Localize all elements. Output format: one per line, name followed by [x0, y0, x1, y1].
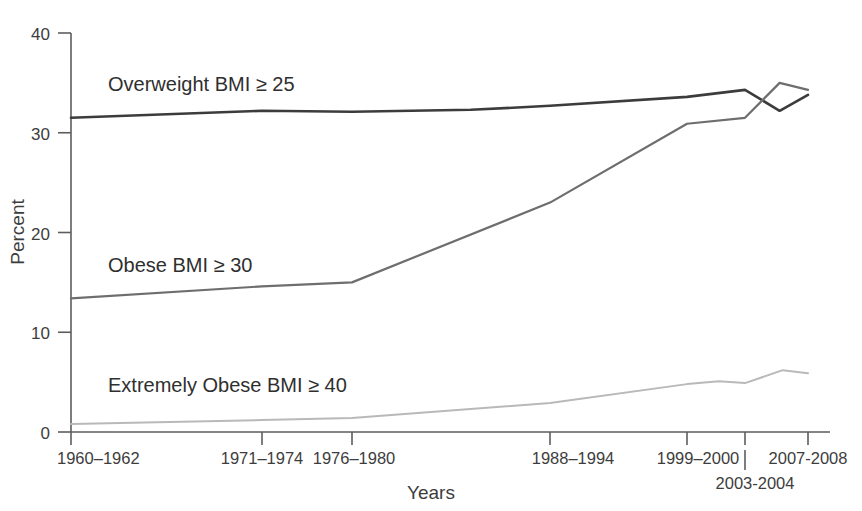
- x-tick-label-1976-1980: 1976–1980: [313, 449, 396, 467]
- y-tick-label-0: 0: [41, 424, 50, 443]
- x-tick-label-2007-2008: 2007-2008: [769, 449, 848, 467]
- series-label-obese: Obese BMI ≥ 30: [108, 254, 252, 276]
- x-tick-label-2003-2004: 2003-2004: [716, 474, 795, 492]
- obesity-trend-chart: 40 30 20 10 0 1960–1962 1971–1974 1976–1…: [0, 0, 862, 511]
- x-tick-label-1971-1974: 1971–1974: [221, 449, 304, 467]
- y-ticks-group: 40 30 20 10 0: [31, 25, 71, 443]
- series-labels-group: Overweight BMI ≥ 25 Obese BMI ≥ 30 Extre…: [108, 73, 347, 396]
- y-tick-label-20: 20: [31, 225, 50, 244]
- series-label-extremely-obese: Extremely Obese BMI ≥ 40: [108, 374, 347, 396]
- y-tick-label-10: 10: [31, 324, 50, 343]
- y-axis-title: Percent: [7, 199, 28, 265]
- x-tick-label-1960-1962: 1960–1962: [57, 449, 140, 467]
- x-tick-label-1988-1994: 1988–1994: [532, 449, 615, 467]
- y-tick-label-30: 30: [31, 125, 50, 144]
- chart-canvas: 40 30 20 10 0 1960–1962 1971–1974 1976–1…: [0, 0, 862, 511]
- x-tick-label-1999-2000: 1999–2000: [657, 449, 740, 467]
- y-tick-label-40: 40: [31, 25, 50, 44]
- series-label-overweight: Overweight BMI ≥ 25: [108, 73, 295, 95]
- x-axis-title: Years: [407, 482, 455, 503]
